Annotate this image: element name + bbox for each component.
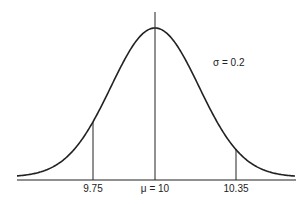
normal-distribution-chart: 9.75 μ = 10 10.35 σ = 0.2 (0, 0, 306, 204)
sigma-annotation: σ = 0.2 (213, 57, 245, 68)
tick-label-10-35: 10.35 (223, 183, 248, 194)
bell-curve (17, 28, 295, 176)
tick-label-mean: μ = 10 (141, 183, 170, 194)
tick-label-9-75: 9.75 (83, 183, 103, 194)
